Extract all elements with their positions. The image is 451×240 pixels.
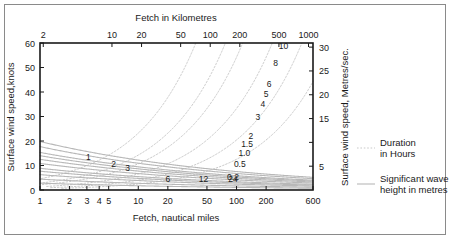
legend: Duration in Hours Significant wave heigh…: [357, 137, 449, 195]
left-tick-label: 40: [25, 88, 35, 98]
duration-contour-label: 6: [165, 174, 170, 184]
bottom-tick-label: 20: [163, 196, 173, 206]
right-tick-label: 15: [319, 114, 329, 124]
wave-height-contour-label: 4: [260, 99, 265, 109]
wave-height-contour-label: 8: [273, 58, 278, 68]
top-tick-label: 10: [107, 30, 117, 40]
bottom-axis-tick-labels: 12345102050100200600: [37, 196, 320, 206]
duration-contour: [41, 43, 195, 178]
bottom-tick-label: 2: [67, 196, 72, 206]
duration-contour-label: 1: [86, 152, 91, 162]
wave-height-contour-label: 1.5: [241, 139, 253, 149]
legend-wave-line2: height in metres: [380, 184, 448, 195]
wave-height-contour-label: 3: [256, 112, 261, 122]
right-tick-label: 5: [319, 162, 324, 172]
wave-height-contour-label: 1.0: [238, 148, 250, 158]
wave-height-contour-label: 2: [249, 131, 254, 141]
bottom-tick-label: 600: [305, 196, 320, 206]
bottom-tick-label: 5: [106, 196, 111, 206]
bottom-tick-label: 50: [202, 196, 212, 206]
bottom-tick-label: 100: [229, 196, 244, 206]
legend-duration-line2: in Hours: [380, 148, 416, 159]
wave-height-contour-label: 10: [279, 41, 289, 51]
right-axis-tick-labels: 515202530: [319, 43, 329, 172]
wave-height-contour-label: 5: [264, 89, 269, 99]
left-tick-label: 50: [25, 63, 35, 73]
top-tick-label: 2: [41, 30, 46, 40]
right-tick-label: 20: [319, 90, 329, 100]
wave-height-contour-label: 6: [267, 79, 272, 89]
right-tick-label: 30: [319, 43, 329, 53]
wave-height-curve-group: [40, 141, 313, 188]
duration-contour-label: 2: [111, 159, 116, 169]
right-tick-label: 25: [319, 66, 329, 76]
top-tick-label: 200: [232, 30, 247, 40]
left-tick-label: 30: [25, 112, 35, 122]
wave-forecast-nomogram: 12345102050100200600 2102050100200500100…: [0, 0, 451, 240]
left-tick-label: 60: [25, 39, 35, 49]
duration-contour-label: 3: [125, 163, 130, 173]
legend-wave-line1: Significant wave: [380, 173, 449, 184]
bottom-tick-label: 200: [259, 196, 274, 206]
left-axis-title: Surface wind speed,knots: [5, 62, 16, 171]
duration-contour: [43, 43, 226, 183]
bottom-tick-label: 3: [84, 196, 89, 206]
left-tick-label: 0: [30, 186, 35, 196]
top-tick-label: 100: [203, 30, 218, 40]
top-axis-tick-labels: 21020501002005001000: [41, 30, 319, 40]
top-axis-title: Fetch in Kilometres: [135, 12, 217, 23]
left-tick-label: 20: [25, 137, 35, 147]
right-axis-title: Surface wind speed, Metres/sec.: [339, 48, 350, 186]
bottom-tick-label: 4: [97, 196, 102, 206]
bottom-tick-label: 10: [133, 196, 143, 206]
duration-contour-label: 12: [199, 174, 209, 184]
legend-duration-line1: Duration: [380, 137, 416, 148]
top-tick-label: 50: [176, 30, 186, 40]
top-tick-label: 1000: [298, 30, 318, 40]
top-tick-label: 20: [137, 30, 147, 40]
left-tick-label: 10: [25, 161, 35, 171]
bottom-axis-title: Fetch, nautical miles: [133, 212, 220, 223]
nomogram-svg: 12345102050100200600 2102050100200500100…: [0, 0, 451, 240]
top-tick-label: 500: [271, 30, 286, 40]
left-axis-tick-labels: 0102030405060: [25, 39, 35, 196]
duration-contour-label: 24: [228, 174, 238, 184]
wave-height-contour-label: 0.5: [234, 159, 246, 169]
bottom-tick-label: 1: [37, 196, 42, 206]
